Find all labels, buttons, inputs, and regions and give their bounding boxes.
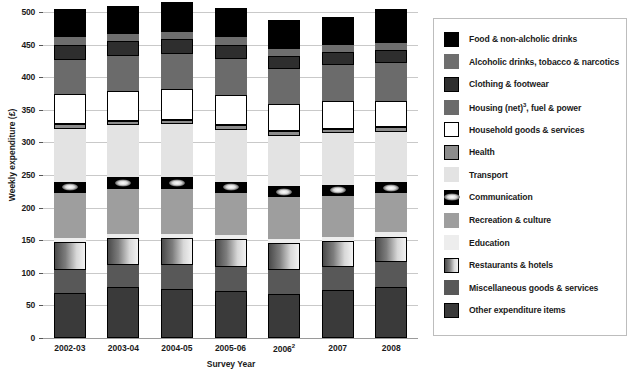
legend-item[interactable]: Alcoholic drinks, tobacco & narcotics	[444, 51, 626, 74]
bar-segment-recreation	[215, 193, 247, 235]
bar-segment-miscellaneous	[268, 270, 300, 293]
bar-segment-communication	[107, 177, 139, 189]
legend-item[interactable]: Recreation & culture	[444, 209, 626, 232]
bar-segment-recreation	[107, 189, 139, 235]
bar-segment-clothing	[54, 45, 86, 60]
communication-highlight	[383, 184, 399, 191]
stacked-bar	[268, 20, 300, 338]
bar-segment-transport	[375, 132, 407, 182]
y-tick-mark	[39, 110, 43, 111]
stacked-bar	[161, 2, 193, 338]
bar-segment-transport	[54, 129, 86, 182]
bar-segment-communication	[268, 186, 300, 197]
bar-segment-food	[268, 20, 300, 49]
bar-segment-education	[161, 234, 193, 238]
legend-item[interactable]: Food & non-alcholic drinks	[444, 28, 626, 51]
communication-highlight	[62, 184, 78, 191]
communication-highlight	[444, 194, 460, 201]
legend-item[interactable]: Clothing & footwear	[444, 73, 626, 96]
recreation-swatch	[444, 213, 459, 228]
bar-segment-alcohol	[268, 49, 300, 56]
bar-segment-alcohol	[375, 43, 407, 50]
bar-segment-recreation	[161, 189, 193, 234]
x-axis-title: Survey Year	[0, 359, 462, 369]
bar-segment-communication	[322, 185, 354, 196]
bar-segment-education	[215, 235, 247, 239]
y-tick-mark	[39, 305, 43, 306]
bar-segment-alcohol	[161, 32, 193, 40]
bar-segment-housing	[375, 63, 407, 101]
legend-item[interactable]: Education	[444, 231, 626, 254]
legend-label: Clothing & footwear	[469, 79, 549, 89]
bar-segment-other	[268, 294, 300, 338]
bar-segment-clothing	[375, 50, 407, 63]
bar-segment-education	[54, 238, 86, 242]
bar-segment-housing	[107, 56, 139, 91]
clothing-swatch	[444, 77, 459, 92]
y-tick-label: 150	[0, 235, 35, 245]
stacked-bar	[322, 17, 354, 338]
bar-segment-clothing	[268, 56, 300, 70]
bar-segment-clothing	[322, 52, 354, 66]
bar-segment-food	[322, 17, 354, 44]
legend-item[interactable]: Housing (net)3, fuel & power	[444, 96, 626, 119]
legend-item[interactable]: Miscellaneous goods & services	[444, 277, 626, 300]
legend-label: Miscellaneous goods & services	[469, 283, 598, 293]
bar-segment-other	[322, 290, 354, 338]
legend-item[interactable]: Other expenditure items	[444, 299, 626, 322]
bar-segment-health	[268, 131, 300, 136]
x-tick-label: 2008	[359, 343, 423, 353]
bar-segment-household-goods	[161, 89, 193, 120]
legend-item[interactable]: Communication	[444, 186, 626, 209]
bar-segment-transport	[268, 136, 300, 186]
other-swatch	[444, 303, 459, 318]
y-tick-label: 500	[0, 7, 35, 17]
legend-item[interactable]: Transport	[444, 164, 626, 187]
bar-segment-education	[375, 232, 407, 237]
bar-segment-health	[322, 129, 354, 134]
bar-segment-miscellaneous	[107, 265, 139, 287]
y-tick-mark	[39, 175, 43, 176]
bar-segment-clothing	[107, 41, 139, 56]
communication-highlight	[169, 179, 185, 186]
bar-segment-recreation	[375, 193, 407, 232]
stacked-bar	[375, 9, 407, 338]
bar-segment-recreation	[268, 197, 300, 239]
legend-item[interactable]: Household goods & services	[444, 118, 626, 141]
education-swatch	[444, 235, 459, 250]
stacked-bar	[215, 8, 247, 338]
y-tick-mark	[39, 208, 43, 209]
bar-segment-health	[107, 121, 139, 126]
y-tick-mark	[39, 77, 43, 78]
bar-segment-other	[54, 293, 86, 338]
bar-segment-household-goods	[322, 101, 354, 128]
bar-segment-other	[215, 291, 247, 338]
bar-segment-restaurants	[322, 241, 354, 267]
bar-segment-restaurants	[215, 239, 247, 267]
bar-segment-restaurants	[54, 242, 86, 270]
legend-label: Food & non-alcholic drinks	[469, 34, 577, 44]
bar-segment-restaurants	[375, 237, 407, 262]
legend-item[interactable]: Restaurants & hotels	[444, 254, 626, 277]
housing-swatch	[444, 100, 459, 115]
bar-segment-recreation	[54, 193, 86, 238]
bar-segment-restaurants	[161, 238, 193, 265]
legend-item[interactable]: Health	[444, 141, 626, 164]
bar-segment-alcohol	[215, 37, 247, 45]
y-tick-mark	[39, 240, 43, 241]
stacked-bar	[54, 9, 86, 338]
legend-label: Other expenditure items	[469, 305, 566, 315]
y-tick-label: 100	[0, 268, 35, 278]
bar-segment-health	[215, 125, 247, 130]
legend-label: Communication	[469, 192, 533, 202]
bar-segment-recreation	[322, 196, 354, 237]
bar-segment-communication	[375, 182, 407, 193]
bar-segment-housing	[268, 69, 300, 104]
bar-segment-miscellaneous	[161, 265, 193, 289]
y-tick-label: 0	[0, 333, 35, 343]
y-tick-mark	[39, 142, 43, 143]
y-tick-label: 200	[0, 203, 35, 213]
bar-segment-restaurants	[107, 238, 139, 265]
bar-segment-other	[375, 287, 407, 338]
bar-segment-transport	[322, 133, 354, 185]
